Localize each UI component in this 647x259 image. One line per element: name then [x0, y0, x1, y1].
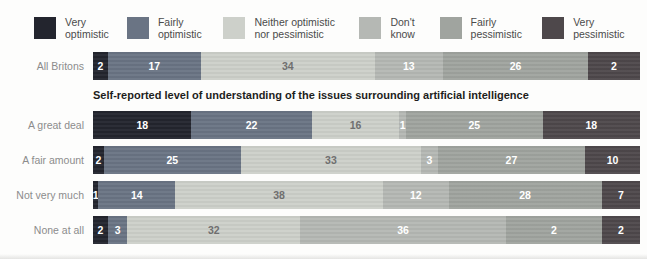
- bar-segment-fairly-optimistic: 22: [191, 111, 311, 139]
- bar-segment-fairly-optimistic: 14: [98, 181, 175, 209]
- bar-segment-fairly-pessimistic: 26: [443, 52, 588, 80]
- row-label: Not very much: [0, 189, 93, 201]
- bar-row-a-great-deal: A great deal18221612518: [0, 111, 647, 139]
- bar-segment-neither-optimistic-nor-pessimistic: 16: [312, 111, 400, 139]
- bar-segment-very-pessimistic: 7: [602, 181, 640, 209]
- legend-swatch-don-t-know: [359, 17, 381, 39]
- bar-segment-very-optimistic: 18: [93, 111, 191, 139]
- stacked-bar: 23323622: [93, 216, 640, 244]
- stacked-bar: 2253332710: [93, 146, 640, 174]
- bar-segment-neither-optimistic-nor-pessimistic: 32: [127, 216, 300, 244]
- bar-segment-very-pessimistic: 10: [585, 146, 640, 174]
- legend-item-very-pessimistic: Very pessimistic: [542, 16, 626, 41]
- legend-label: Don't know: [390, 16, 424, 41]
- legend-swatch-very-pessimistic: [542, 17, 564, 39]
- stacked-bar: 2173413262: [93, 52, 640, 80]
- row-label: A great deal: [0, 119, 93, 131]
- bar-segment-neither-optimistic-nor-pessimistic: 34: [201, 52, 375, 80]
- legend-label: Very optimistic: [65, 16, 112, 41]
- row-label: None at all: [0, 224, 93, 236]
- row-label: A fair amount: [0, 154, 93, 166]
- row-label: All Britons: [0, 60, 93, 72]
- bar-row-a-fair-amount: A fair amount2253332710: [0, 146, 647, 174]
- bar-segment-neither-optimistic-nor-pessimistic: 38: [175, 181, 383, 209]
- bar-segment-fairly-pessimistic: 25: [406, 111, 543, 139]
- bar-segment-very-optimistic: 2: [93, 216, 108, 244]
- legend-label: Neither optimistic nor pessimistic: [254, 16, 344, 41]
- legend-label: Very pessimistic: [573, 16, 626, 41]
- bar-segment-don-t-know: 36: [300, 216, 506, 244]
- bar-segment-neither-optimistic-nor-pessimistic: 33: [241, 146, 422, 174]
- bar-segment-fairly-optimistic: 3: [108, 216, 128, 244]
- bar-segment-very-pessimistic: 2: [602, 216, 640, 244]
- bar-segment-very-pessimistic: 18: [543, 111, 640, 139]
- section-heading: Self-reported level of understanding of …: [93, 89, 529, 101]
- stacked-bar: 1143812287: [93, 181, 640, 209]
- bar-segment-very-pessimistic: 2: [588, 52, 640, 80]
- bar-segment-don-t-know: 13: [375, 52, 443, 80]
- legend-label: Fairly optimistic: [158, 16, 209, 41]
- legend-swatch-very-optimistic: [34, 17, 56, 39]
- legend-item-very-optimistic: Very optimistic: [34, 16, 112, 41]
- stacked-bar: 18221612518: [93, 111, 640, 139]
- legend-item-fairly-pessimistic: Fairly pessimistic: [440, 16, 528, 41]
- chart-legend: Very optimisticFairly optimisticNeither …: [34, 9, 641, 47]
- legend-swatch-neither-optimistic-nor-pessimistic: [223, 17, 245, 39]
- scan-edge-shadow: [0, 254, 647, 259]
- bar-segment-fairly-optimistic: 17: [108, 52, 201, 80]
- bar-row-none-at-all: None at all23323622: [0, 216, 647, 244]
- bar-segment-very-optimistic: 2: [93, 52, 108, 80]
- bar-segment-fairly-pessimistic: 2: [506, 216, 602, 244]
- bar-segment-fairly-pessimistic: 27: [438, 146, 586, 174]
- bar-segment-fairly-optimistic: 25: [104, 146, 241, 174]
- bar-row-all-britons: All Britons2173413262: [0, 52, 647, 80]
- bar-segment-very-optimistic: 2: [93, 146, 104, 174]
- legend-label: Fairly pessimistic: [471, 16, 528, 41]
- bar-segment-fairly-pessimistic: 28: [449, 181, 602, 209]
- bar-row-not-very-much: Not very much1143812287: [0, 181, 647, 209]
- legend-item-don-t-know: Don't know: [359, 16, 424, 41]
- legend-item-fairly-optimistic: Fairly optimistic: [127, 16, 209, 41]
- legend-swatch-fairly-pessimistic: [440, 17, 462, 39]
- bar-segment-don-t-know: 12: [383, 181, 449, 209]
- legend-swatch-fairly-optimistic: [127, 17, 149, 39]
- legend-item-neither-optimistic-nor-pessimistic: Neither optimistic nor pessimistic: [223, 16, 344, 41]
- bar-segment-don-t-know: 3: [421, 146, 437, 174]
